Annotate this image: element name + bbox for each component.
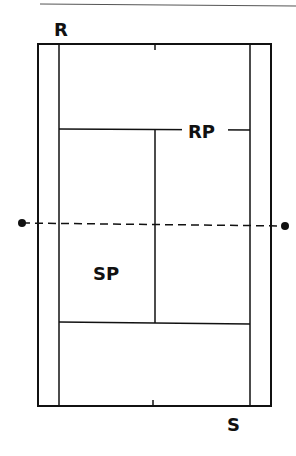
label-server: S bbox=[227, 414, 240, 435]
net-dashed-line bbox=[22, 223, 285, 226]
label-receiver: R bbox=[54, 19, 68, 40]
label-server-partner: SP bbox=[93, 263, 119, 284]
tennis-court-diagram: R RP SP S bbox=[0, 0, 296, 456]
left-net-post-dot bbox=[18, 219, 26, 227]
header-rule bbox=[40, 4, 296, 6]
right-net-post-dot bbox=[281, 222, 289, 230]
label-receiver-partner: RP bbox=[188, 121, 215, 142]
